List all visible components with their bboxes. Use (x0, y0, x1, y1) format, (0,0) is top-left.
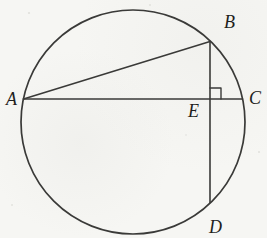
speckle-dot (11, 204, 13, 206)
segment-AB (24, 42, 211, 100)
speckle-dot (258, 151, 260, 153)
label-E: E (187, 101, 199, 121)
paper-speckles (11, 4, 260, 206)
label-B: B (224, 12, 235, 32)
right-angle-mark (210, 88, 221, 99)
geometry-canvas: A B C D E (0, 0, 267, 238)
geometry-figure: A B C D E (0, 0, 267, 238)
circle-outline (21, 10, 245, 234)
label-C: C (249, 88, 262, 108)
speckle-dot (28, 12, 30, 14)
speckle-dot (149, 4, 151, 6)
label-D: D (208, 217, 222, 237)
label-A: A (5, 89, 18, 109)
speckle-dot (185, 134, 187, 136)
